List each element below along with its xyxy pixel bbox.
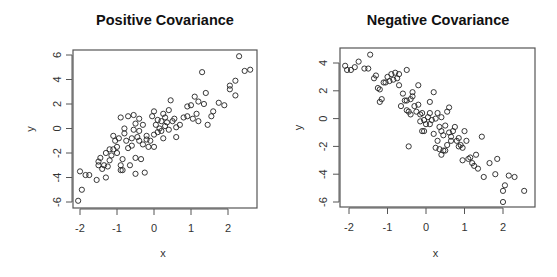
data-point xyxy=(435,110,440,115)
data-point xyxy=(502,183,507,188)
data-point xyxy=(211,109,216,114)
data-point xyxy=(140,142,145,147)
data-point xyxy=(500,199,505,204)
data-point xyxy=(103,175,108,180)
y-tick-label: 4 xyxy=(317,60,329,66)
data-point xyxy=(166,127,171,132)
x-tick-label: 2 xyxy=(500,221,506,233)
data-point xyxy=(144,133,149,138)
data-point xyxy=(512,174,517,179)
data-point xyxy=(205,122,210,127)
data-point xyxy=(79,187,84,192)
data-point xyxy=(435,138,440,143)
data-point xyxy=(356,59,361,64)
data-point xyxy=(140,122,145,127)
scatter-plot-positive: -2-1012-6-4-20246xy xyxy=(0,0,280,277)
data-point xyxy=(445,142,450,147)
data-point xyxy=(151,109,156,114)
data-point xyxy=(404,67,409,72)
data-point xyxy=(396,83,401,88)
data-point xyxy=(116,136,121,141)
data-point xyxy=(114,144,119,149)
y-tick-label: -2 xyxy=(317,142,329,152)
data-point xyxy=(431,90,436,95)
data-point xyxy=(462,129,467,134)
data-point xyxy=(233,93,238,98)
data-point xyxy=(495,156,500,161)
x-tick-label: 0 xyxy=(151,222,157,234)
data-point xyxy=(168,98,173,103)
chart-panel-negative: Negative Covariance -2-1012-6-4-2024xy xyxy=(280,0,557,277)
y-axis-label: y xyxy=(292,124,304,130)
data-point xyxy=(506,173,511,178)
data-point xyxy=(161,136,166,141)
data-point xyxy=(133,155,138,160)
data-point xyxy=(177,122,182,127)
x-tick-label: -1 xyxy=(112,222,122,234)
data-point xyxy=(416,83,421,88)
data-point xyxy=(431,131,436,136)
data-point xyxy=(192,94,197,99)
data-point xyxy=(114,150,119,155)
data-point xyxy=(109,153,114,158)
data-point xyxy=(133,121,138,126)
data-point xyxy=(174,125,179,130)
data-point xyxy=(352,65,357,70)
data-point xyxy=(368,52,373,57)
data-point xyxy=(460,158,465,163)
data-point xyxy=(127,163,132,168)
y-tick-label: -4 xyxy=(51,173,63,183)
data-point xyxy=(118,115,123,120)
data-point xyxy=(122,131,127,136)
y-tick-label: -6 xyxy=(317,197,329,207)
data-point xyxy=(138,157,143,162)
data-point xyxy=(398,103,403,108)
data-point xyxy=(150,114,155,119)
data-point xyxy=(126,114,131,119)
data-point xyxy=(201,101,206,106)
data-point xyxy=(194,111,199,116)
data-point xyxy=(137,128,142,133)
y-tick-label: -2 xyxy=(51,148,63,158)
data-point xyxy=(113,138,118,143)
scatter-plot-negative: -2-1012-6-4-2024xy xyxy=(280,0,557,277)
data-point xyxy=(111,133,116,138)
data-point xyxy=(137,116,142,121)
data-point xyxy=(166,108,171,113)
data-point xyxy=(94,177,99,182)
y-tick-label: -6 xyxy=(51,197,63,207)
data-point xyxy=(151,132,156,137)
data-point xyxy=(122,126,127,131)
y-tick-label: 0 xyxy=(317,116,329,122)
data-point xyxy=(107,158,112,163)
data-point xyxy=(473,152,478,157)
x-axis-label: x xyxy=(433,247,439,259)
data-point xyxy=(209,114,214,119)
chart-panel-positive: Positive Covariance -2-1012-6-4-20246xy xyxy=(0,0,280,277)
data-point xyxy=(500,188,505,193)
data-point xyxy=(120,157,125,162)
data-point xyxy=(118,163,123,168)
data-point xyxy=(129,143,134,148)
y-tick-label: -4 xyxy=(317,169,329,179)
data-point xyxy=(151,144,156,149)
x-tick-label: 2 xyxy=(225,222,231,234)
data-point xyxy=(406,144,411,149)
data-point xyxy=(196,119,201,124)
x-tick-label: 1 xyxy=(461,221,467,233)
data-point xyxy=(216,100,221,105)
data-point xyxy=(87,172,92,177)
data-point xyxy=(129,136,134,141)
y-tick-label: 2 xyxy=(317,88,329,94)
data-point xyxy=(493,172,498,177)
data-point xyxy=(77,169,82,174)
data-point xyxy=(227,83,232,88)
data-point xyxy=(481,174,486,179)
data-point xyxy=(76,198,81,203)
data-point xyxy=(248,67,253,72)
y-tick-label: 6 xyxy=(51,52,63,58)
x-tick-label: 1 xyxy=(188,222,194,234)
data-point xyxy=(126,146,131,151)
data-point xyxy=(427,99,432,104)
data-point xyxy=(443,123,448,128)
